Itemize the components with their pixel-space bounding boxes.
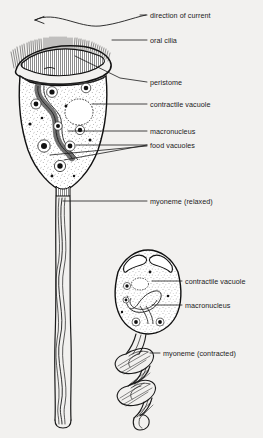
- label-macronucleus-upper: macronucleus: [150, 127, 196, 136]
- label-direction-of-current: direction of current: [150, 11, 211, 20]
- label-oral-cilia: oral cilia: [150, 36, 177, 45]
- contractile-vacuole-contracted: [132, 278, 149, 290]
- contracted-organism: [115, 250, 181, 334]
- contractile-vacuole-extended: [65, 99, 93, 125]
- label-contractile-vacuole-lower: contractile vacuole: [185, 277, 245, 286]
- label-peristome: peristome: [150, 78, 182, 87]
- label-macronucleus-lower: macronucleus: [185, 301, 231, 310]
- label-contractile-vacuole-upper: contractile vacuole: [150, 100, 210, 109]
- label-food-vacuoles: food vacuoles: [150, 141, 195, 150]
- label-myoneme-relaxed: myoneme (relaxed): [150, 197, 213, 206]
- diagram-canvas: direction of current oral cilia peristom…: [0, 0, 263, 438]
- vorticella-diagram: direction of current oral cilia peristom…: [0, 0, 263, 438]
- label-myoneme-contracted: myoneme (contracted): [163, 349, 236, 358]
